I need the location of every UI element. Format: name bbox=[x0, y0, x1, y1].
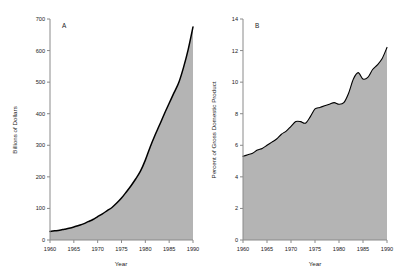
x-axis-title-a: Year bbox=[115, 260, 128, 267]
chart-b-svg: 02468101214 1960196519701975198019851990… bbox=[205, 0, 410, 279]
y-tick-label: 200 bbox=[36, 174, 45, 180]
y-tick-label: 2 bbox=[235, 205, 238, 211]
x-ticks-a: 1960196519701975198019851990 bbox=[44, 240, 199, 252]
y-tick-label: 8 bbox=[235, 111, 238, 117]
panel-letter-a: A bbox=[62, 22, 67, 29]
x-tick-label: 1960 bbox=[44, 246, 56, 252]
area-fill-b bbox=[243, 47, 387, 240]
panel-letter-b: B bbox=[255, 22, 259, 29]
x-tick-label: 1975 bbox=[115, 246, 127, 252]
y-tick-label: 4 bbox=[235, 174, 238, 180]
x-tick-label: 1970 bbox=[285, 246, 297, 252]
y-tick-label: 0 bbox=[235, 237, 238, 243]
x-tick-label: 1990 bbox=[187, 246, 199, 252]
y-ticks-a: 0100200300400500600700 bbox=[36, 16, 50, 243]
x-tick-label: 1985 bbox=[357, 246, 369, 252]
x-tick-label: 1970 bbox=[91, 246, 103, 252]
x-ticks-b: 1960196519701975198019851990 bbox=[237, 240, 393, 252]
chart-b-plot bbox=[243, 47, 387, 240]
x-tick-label: 1975 bbox=[309, 246, 321, 252]
y-tick-label: 6 bbox=[235, 142, 238, 148]
x-tick-label: 1990 bbox=[381, 246, 393, 252]
y-ticks-b: 02468101214 bbox=[232, 16, 243, 243]
x-tick-label: 1965 bbox=[68, 246, 80, 252]
y-tick-label: 0 bbox=[42, 237, 45, 243]
y-axis-title-a: Billions of Dollars bbox=[11, 106, 18, 153]
x-tick-label: 1980 bbox=[333, 246, 345, 252]
area-fill-a bbox=[50, 27, 193, 240]
x-tick-label: 1985 bbox=[163, 246, 175, 252]
chart-a-svg: 0100200300400500600700 19601965197019751… bbox=[0, 0, 205, 279]
x-tick-label: 1980 bbox=[139, 246, 151, 252]
y-tick-label: 400 bbox=[36, 111, 45, 117]
y-tick-label: 700 bbox=[36, 16, 45, 22]
x-axis-title-b: Year bbox=[309, 260, 322, 267]
y-tick-label: 600 bbox=[36, 48, 45, 54]
chart-a-plot bbox=[50, 27, 193, 240]
y-tick-label: 14 bbox=[232, 16, 238, 22]
y-axis-title-b: Percent of Gross Domestic Product bbox=[210, 81, 217, 178]
y-tick-label: 10 bbox=[232, 79, 238, 85]
y-tick-label: 500 bbox=[36, 79, 45, 85]
x-tick-label: 1960 bbox=[237, 246, 249, 252]
x-tick-label: 1965 bbox=[261, 246, 273, 252]
y-tick-label: 100 bbox=[36, 205, 45, 211]
panel-a: 0100200300400500600700 19601965197019751… bbox=[0, 0, 205, 279]
y-tick-label: 300 bbox=[36, 142, 45, 148]
figure-container: 0100200300400500600700 19601965197019751… bbox=[0, 0, 410, 279]
y-tick-label: 12 bbox=[232, 48, 238, 54]
panel-b: 02468101214 1960196519701975198019851990… bbox=[205, 0, 410, 279]
